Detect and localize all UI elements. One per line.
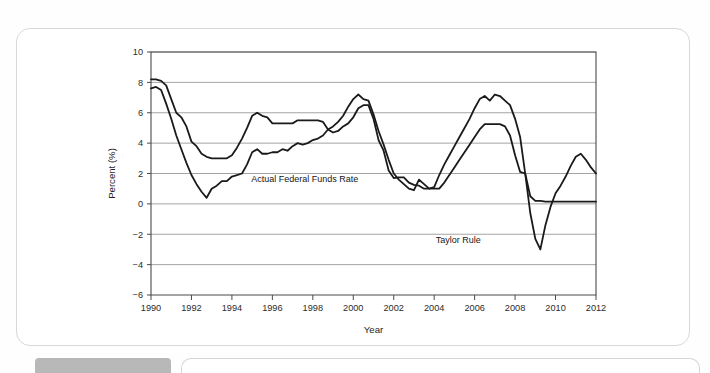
x-axis-tick-label: 2002 — [384, 303, 404, 313]
x-axis-tick-label: 2006 — [464, 303, 484, 313]
y-axis-tick-label: 0 — [138, 199, 143, 209]
x-axis-tick-label: 1998 — [303, 303, 323, 313]
x-axis-tick-label: 2000 — [343, 303, 363, 313]
x-axis-tick-label: 2010 — [545, 303, 565, 313]
bottom-gray-tab — [35, 358, 171, 373]
y-axis-tick-label: 2 — [138, 169, 143, 179]
y-axis-tick-label: −2 — [133, 230, 143, 240]
y-axis-title: Percent (%) — [106, 148, 117, 199]
x-axis-tick-label: 2008 — [505, 303, 525, 313]
series-line-taylor-rule — [151, 87, 596, 250]
y-axis-tick-label: −6 — [133, 290, 143, 300]
y-axis-tick-label: 10 — [133, 47, 143, 57]
bottom-outline-panel — [181, 358, 700, 373]
x-axis-title: Year — [364, 324, 384, 335]
line-chart: 1086420−2−4−6199019921994199619982000200… — [0, 0, 710, 373]
y-axis-tick-label: 8 — [138, 78, 143, 88]
series-annotation-actual-federal-funds-rate: Actual Federal Funds Rate — [251, 174, 358, 184]
y-axis-tick-label: −4 — [133, 260, 143, 270]
x-axis-tick-label: 2012 — [586, 303, 606, 313]
x-axis-tick-label: 1996 — [262, 303, 282, 313]
x-axis-tick-label: 1994 — [222, 303, 242, 313]
page-canvas: s: Trends and the Taylor Rule nd Figure … — [0, 0, 710, 373]
x-axis-tick-label: 1992 — [181, 303, 201, 313]
chart-container: 1086420−2−4−6199019921994199619982000200… — [0, 0, 710, 373]
series-line-actual-federal-funds-rate — [151, 79, 596, 201]
x-axis-tick-label: 1990 — [141, 303, 161, 313]
x-axis-tick-label: 2004 — [424, 303, 444, 313]
y-axis-tick-label: 6 — [138, 108, 143, 118]
y-axis-tick-label: 4 — [138, 138, 143, 148]
series-annotation-taylor-rule: Taylor Rule — [436, 235, 481, 245]
